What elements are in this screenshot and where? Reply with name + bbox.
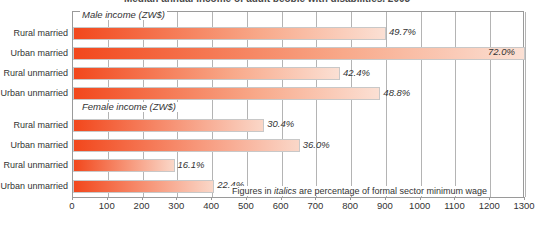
category-label: Rural married [13,120,68,130]
category-label: Urban unmarried [0,88,68,98]
footnote-prefix: Figures in [232,186,274,196]
x-tick-label: 1300 [513,200,534,211]
x-tick-mark [350,197,351,200]
x-tick-mark [176,197,177,200]
bar [73,119,264,132]
x-tick-mark [281,197,282,200]
x-tick-label: 900 [377,200,393,211]
x-tick-label: 500 [238,200,254,211]
bar [73,47,525,60]
x-tick-label: 0 [69,200,74,211]
x-tick-label: 300 [168,200,184,211]
x-tick-label: 800 [342,200,358,211]
bar [73,27,386,40]
category-label: Rural married [13,28,68,38]
category-label: Urban married [10,48,68,58]
x-tick-mark [315,197,316,200]
bar [73,180,214,193]
bar-value-label: 49.7% [389,27,416,37]
x-tick-mark [107,197,108,200]
group-header-male: Male income (ZW$) [80,10,167,20]
bar-value-label: 48.8% [383,88,410,98]
x-tick-mark [72,197,73,200]
x-tick-label: 100 [99,200,115,211]
x-tick-mark [454,197,455,200]
x-tick-label: 1100 [444,200,464,211]
footnote-suffix: are percentage of formal sector minimum … [297,186,488,196]
footnote-emphasis: italics [274,186,297,196]
bar-value-label: 72.0% [488,47,515,57]
x-tick-label: 400 [203,200,219,211]
bar [73,87,380,100]
x-tick-label: 200 [134,200,150,211]
x-tick-label: 1000 [409,200,430,211]
footnote: Figures in italics are percentage of for… [230,186,489,196]
gridline [525,12,526,197]
bar-value-label: 16.1% [178,160,205,170]
x-tick-label: 1200 [479,200,500,211]
category-label: Rural unmarried [3,160,68,170]
chart-title: Median annual income of adult people wit… [0,0,534,2]
bar [73,159,175,172]
bar-value-label: 36.0% [303,140,330,150]
group-header-female: Female income (ZW$) [80,102,178,112]
x-tick-mark [385,197,386,200]
x-tick-mark [211,197,212,200]
x-tick-mark [489,197,490,200]
x-tick-label: 700 [307,200,323,211]
category-label: Urban unmarried [0,181,68,191]
x-tick-mark [420,197,421,200]
category-label: Rural unmarried [3,68,68,78]
x-tick-mark [246,197,247,200]
category-label: Urban married [10,140,68,150]
x-axis-ticks: 0100200300400500600700800900100011001200… [0,200,534,214]
bar [73,67,340,80]
bar-value-label: 42.4% [343,68,370,78]
x-tick-label: 600 [273,200,289,211]
category-label-column: Rural marriedUrban marriedRural unmarrie… [0,11,70,198]
bar [73,139,300,152]
x-tick-mark [142,197,143,200]
bar-value-label: 30.4% [267,119,294,129]
x-tick-mark [524,197,525,200]
